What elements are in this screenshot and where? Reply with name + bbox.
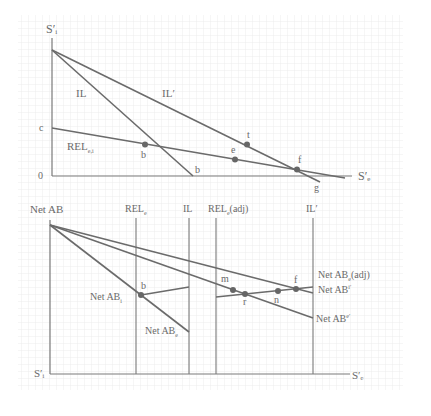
lower-origin-label: S′ᵢ: [34, 367, 45, 379]
net-ab-e-prime-label: Net ABe′: [316, 313, 351, 324]
intercept-c-label: c: [39, 122, 44, 133]
lower-x-axis-label: S′ₑ: [352, 369, 364, 381]
point-e-label: e: [231, 144, 236, 155]
lower-point-f: [293, 286, 299, 292]
point-b: [142, 142, 148, 148]
upper-x-axis-label: S′ₑ: [358, 169, 370, 183]
economic-diagram: S′ᵢ S′ₑ 0 c IL IL′ RELe,i b b e t f g Ne…: [0, 0, 431, 416]
upper-y-axis-label: S′ᵢ: [46, 22, 57, 36]
point-e: [232, 157, 238, 163]
point-t: [244, 142, 250, 148]
point-b-label: b: [141, 149, 146, 160]
net-ab-i-prime-label: Net ABi′: [318, 284, 352, 295]
origin-label: 0: [38, 170, 43, 181]
il-prime-label: IL′: [162, 87, 175, 99]
il-prime-vertical-label: IL′: [306, 203, 318, 214]
lower-point-b-label: b: [141, 280, 146, 291]
point-b-axis-label: b: [195, 164, 200, 175]
point-f: [294, 167, 300, 173]
lower-point-b: [138, 292, 144, 298]
point-m-label: m: [221, 273, 229, 284]
point-n-label: n: [274, 294, 279, 305]
point-g-label: g: [314, 182, 319, 193]
point-m: [230, 287, 236, 293]
il-label: IL: [76, 87, 87, 99]
lower-y-axis-label: Net AB: [30, 203, 63, 215]
point-t-label: t: [247, 129, 250, 140]
il-vertical-label: IL: [183, 203, 192, 214]
